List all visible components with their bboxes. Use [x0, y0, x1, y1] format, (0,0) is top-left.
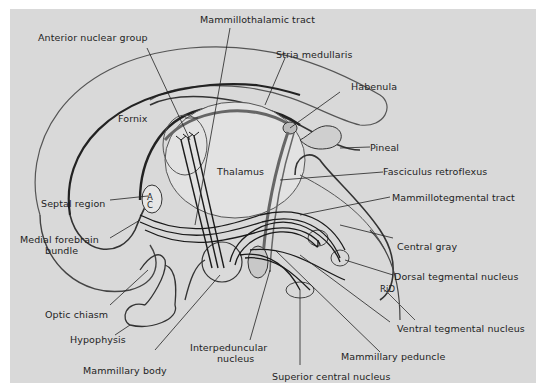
label-mammillary-body: Mammillary body	[83, 365, 167, 376]
label-hypophysis: Hypophysis	[70, 334, 126, 345]
label-central-gray: Central gray	[397, 241, 457, 252]
hypophysis-shape	[125, 265, 176, 326]
label-fornix: Fornix	[118, 113, 148, 124]
label-medial-forebrain-bundle-line1: Medial forebrain	[20, 234, 99, 245]
label-fasciculus-retroflexus: Fasciculus retroflexus	[383, 166, 487, 177]
label-stria-medullaris: Stria medullaris	[276, 49, 353, 60]
label-thalamus: Thalamus	[217, 166, 264, 177]
label-optic-chiasm: Optic chiasm	[45, 309, 108, 320]
label-habenula: Habenula	[351, 81, 397, 92]
label-superior-central-nucleus: Superior central nucleus	[272, 371, 391, 382]
label-mammillothalamic-tract: Mammillothalamic tract	[200, 14, 315, 25]
label-mammillotegmental-tract: Mammillotegmental tract	[392, 192, 515, 203]
label-anterior-commissure: A C	[147, 193, 157, 209]
interpeduncular-nucleus-shape	[248, 246, 268, 278]
label-septal-region: Septal region	[41, 198, 105, 209]
diagram-frame: Mammillothalamic tract Anterior nuclear …	[10, 9, 536, 383]
label-mammillary-peduncle: Mammillary peduncle	[341, 351, 445, 362]
label-ventral-tegmental-nucleus: Ventral tegmental nucleus	[397, 323, 525, 334]
label-rid: RiD	[380, 284, 395, 295]
label-dorsal-tegmental-nucleus: Dorsal tegmental nucleus	[394, 271, 519, 282]
label-medial-forebrain-bundle-line2: bundle	[45, 245, 78, 256]
label-pineal: Pineal	[370, 142, 399, 153]
label-anterior-nuclear-group: Anterior nuclear group	[38, 32, 148, 43]
medial-forebrain-bundle-fibers	[140, 212, 345, 290]
label-interpeduncular-nucleus-line2: nucleus	[217, 353, 254, 364]
label-interpeduncular-nucleus-line1: Interpeduncular	[190, 342, 267, 353]
optic-chiasm-shape	[140, 255, 165, 305]
